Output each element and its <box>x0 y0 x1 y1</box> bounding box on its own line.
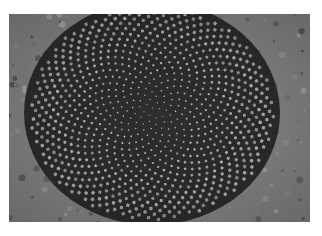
sunflower-photo <box>9 14 310 222</box>
sunflower-seed-spiral <box>9 14 310 222</box>
